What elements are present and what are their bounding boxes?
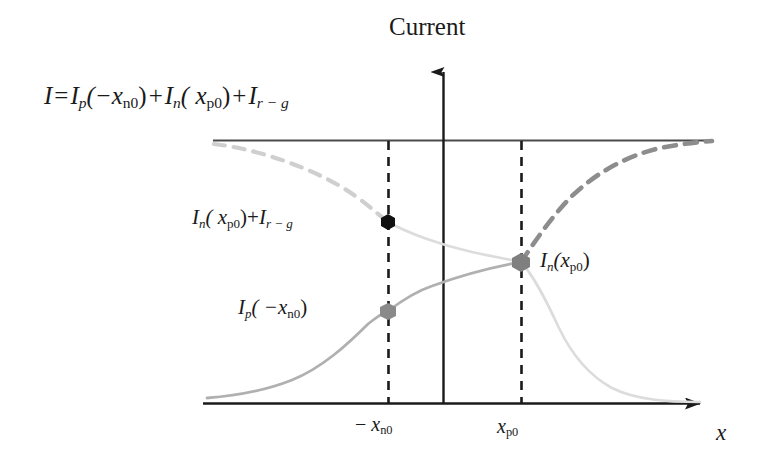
x-axis-label: x [716, 421, 726, 444]
tick-left-sym: x [371, 413, 380, 435]
eq-term2-arg-sub: p0 [207, 94, 223, 111]
low-t1: I [238, 295, 245, 319]
rgt-t1: I [540, 248, 547, 272]
eq-term3-sub: r − g [257, 94, 289, 111]
eq-term2-arg: ( x [181, 82, 207, 109]
eq-term1-arg: (−x [87, 82, 123, 109]
curve-hole-dashed-right [521, 141, 712, 262]
eq-plus1: + [147, 82, 165, 109]
eq-term1-sub: p [79, 94, 87, 111]
eq-term3: I [248, 82, 256, 109]
eq-term2-sub: n [173, 94, 181, 111]
low-t1-close: ) [300, 295, 307, 319]
eq-term2: I [165, 82, 173, 109]
eq-term1-close: ) [138, 82, 146, 109]
black-marker-label: In( xp0)+Ir − g [192, 207, 293, 230]
blk-t2: I [259, 205, 266, 229]
low-t1-arg-sub: n0 [287, 306, 300, 321]
eq-plus2: + [230, 82, 248, 109]
eq-equals: = [52, 82, 70, 109]
x-tick-label-xn0: − xn0 [355, 414, 393, 437]
blk-t1-arg-sub: p0 [227, 216, 240, 231]
figure-root: Current I=Ip(−xn0)+In( xp0)+Ir − g In( x… [0, 0, 760, 461]
chart-title: Current [389, 14, 465, 39]
tick-right-sub: p0 [506, 425, 518, 439]
tick-left-sign: − [355, 413, 371, 435]
blk-t2-sub: r − g [266, 216, 293, 231]
tick-left-sub: n0 [380, 423, 392, 437]
figure-canvas [0, 0, 760, 461]
blk-t1: I [192, 205, 199, 229]
tick-right-sym: x [497, 415, 506, 437]
total-current-equation: I=Ip(−xn0)+In( xp0)+Ir − g [44, 83, 289, 111]
curve-hole-solid-left [207, 262, 521, 398]
right-marker-label: In(xp0) [540, 250, 590, 273]
rgt-t1-close: ) [583, 248, 590, 272]
lower-marker-label: Ip( −xn0) [238, 297, 307, 320]
blk-plus: + [247, 205, 259, 229]
blk-t1-arg: ( x [206, 205, 228, 229]
low-t1-arg: ( −x [252, 295, 288, 319]
eq-term1-arg-sub: n0 [123, 94, 139, 111]
rgt-t1-arg: (x [554, 248, 570, 272]
x-tick-label-xp0: xp0 [497, 416, 518, 439]
rgt-t1-arg-sub: p0 [570, 259, 583, 274]
eq-term1: I [70, 82, 78, 109]
